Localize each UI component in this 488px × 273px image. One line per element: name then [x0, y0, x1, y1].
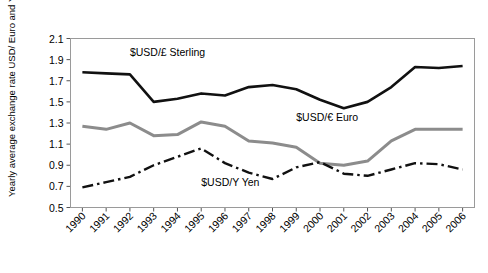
y-tick-label: 0.9: [49, 159, 64, 171]
y-tick-label: 1.3: [49, 117, 64, 129]
chart-canvas: Yearly average exchange rate USD/ Euro a…: [0, 0, 488, 273]
y-tick-label: 1.9: [49, 54, 64, 66]
series-label-1: $USD/€ Euro: [296, 111, 358, 123]
series-label-0: $USD/£ Sterling: [130, 46, 205, 58]
y-tick-label: 1.5: [49, 96, 64, 108]
y-tick-label: 1.7: [49, 75, 64, 87]
y-tick-label: 1.1: [49, 138, 64, 150]
y-axis-title: Yearly average exchange rate USD/ Euro a…: [6, 0, 17, 197]
y-tick-label: 0.5: [49, 202, 64, 214]
exchange-rate-chart: Yearly average exchange rate USD/ Euro a…: [0, 0, 488, 273]
y-tick-label: 2.1: [49, 33, 64, 45]
series-label-2: $USD/Y Yen: [201, 176, 259, 188]
y-tick-label: 0.7: [49, 180, 64, 192]
y-axis-tick-group: 0.50.70.91.11.31.51.71.92.1: [49, 33, 71, 214]
